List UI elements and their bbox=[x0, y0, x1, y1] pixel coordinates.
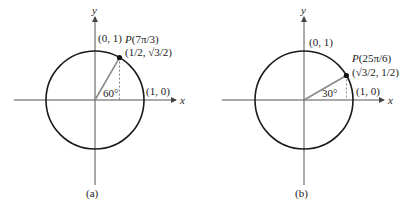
right-point-label: (1, 0) bbox=[356, 85, 380, 98]
unit-circle-figures: x y (0, 1) (1, 0) P(7π/3) (1/2, √3/2) 60… bbox=[0, 0, 402, 211]
point-name-label: P(25π/6) bbox=[351, 52, 392, 65]
top-point-label: (0, 1) bbox=[309, 36, 333, 49]
top-point-label: (0, 1) bbox=[98, 32, 122, 45]
y-axis-label: y bbox=[300, 4, 306, 16]
point-p bbox=[117, 55, 122, 60]
point-p bbox=[344, 73, 349, 78]
figure-b: x y (0, 1) (1, 0) P(25π/6) (√3/2, 1/2) 3… bbox=[222, 4, 399, 200]
point-coords-label: (√3/2, 1/2) bbox=[352, 66, 399, 79]
point-coords-label: (1/2, √3/2) bbox=[125, 46, 172, 59]
figure-a: x y (0, 1) (1, 0) P(7π/3) (1/2, √3/2) 60… bbox=[14, 4, 185, 200]
angle-label: 60° bbox=[103, 87, 118, 99]
angle-label: 30° bbox=[322, 87, 337, 99]
point-name-label: P(7π/3) bbox=[124, 33, 159, 46]
figure-caption: (a) bbox=[86, 187, 99, 200]
x-axis-label: x bbox=[387, 94, 393, 106]
right-point-label: (1, 0) bbox=[146, 85, 170, 98]
y-axis-label: y bbox=[91, 4, 97, 16]
x-axis-label: x bbox=[179, 94, 185, 106]
figure-caption: (b) bbox=[295, 187, 308, 200]
